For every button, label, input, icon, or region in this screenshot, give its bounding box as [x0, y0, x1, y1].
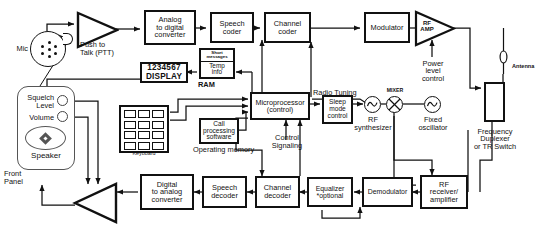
speech-coder-block[interactable]: Speech coder — [210, 12, 254, 43]
equalizer-block[interactable]: Equalizer *optional — [307, 177, 353, 207]
radio-tuning-label: Radio Tuning — [313, 88, 365, 98]
ram-short-messages: Short messages — [201, 50, 233, 62]
frequency-duplexer-block[interactable] — [484, 82, 505, 122]
fixed-oscillator-icon — [424, 96, 441, 113]
block-diagram-canvas: Mic Push to Talk (PTT) Analog to digital… — [0, 0, 555, 242]
control-signaling-label: Control Signaling — [264, 132, 310, 152]
call-processing-software-block[interactable]: Call processing software — [199, 118, 239, 144]
key[interactable] — [152, 142, 164, 150]
channel-decoder-block[interactable]: Channel decoder — [255, 176, 300, 208]
key[interactable] — [152, 110, 164, 118]
keypad-grid[interactable] — [124, 110, 164, 150]
volume-label: Volume — [20, 113, 54, 123]
ram-temp-info: Temp info — [201, 62, 233, 77]
key[interactable] — [124, 121, 136, 129]
key[interactable] — [138, 142, 150, 150]
key[interactable] — [124, 110, 136, 118]
fixed-oscillator-label: Fixed oscillator — [410, 114, 456, 134]
front-panel-label: Front Panel — [4, 168, 38, 188]
rf-synthesizer-label: RF synthesizer — [348, 114, 398, 134]
operating-memory-label: Operating memory — [193, 145, 259, 155]
key[interactable] — [152, 121, 164, 129]
mic-label: Mic — [0, 44, 28, 54]
antenna-label: Antenna — [512, 62, 554, 72]
power-level-control-label: Power level control — [408, 58, 458, 84]
microprocessor-block[interactable]: Microprocessor (control) — [250, 92, 310, 120]
speaker-center-icon — [39, 132, 52, 145]
key[interactable] — [138, 110, 150, 118]
mixer-label: MIXER — [378, 86, 412, 95]
speaker-label: Speaker — [20, 151, 72, 162]
mixer-icon — [386, 96, 403, 113]
key[interactable] — [124, 142, 136, 150]
ram-label: RAM — [198, 80, 230, 90]
digital-to-analog-converter-block[interactable]: Digital to analog converter — [140, 174, 194, 210]
ptt-label: Push to Talk (PTT) — [80, 40, 140, 58]
audio-amplifier-icon — [72, 182, 118, 224]
speaker-icon — [25, 126, 66, 150]
modulator-block[interactable]: Modulator — [364, 12, 410, 43]
rf-synthesizer-icon — [364, 96, 381, 113]
key[interactable] — [138, 121, 150, 129]
key[interactable] — [138, 131, 150, 139]
antenna-icon — [496, 28, 512, 74]
keyboard-label: Keyboard — [132, 151, 155, 157]
squelch-level-label: Squelch Level — [20, 93, 54, 110]
display-text: DISPLAY — [146, 73, 182, 82]
ram-block[interactable]: Short messages Temp info — [199, 48, 235, 79]
channel-coder-block[interactable]: Channel coder — [264, 12, 311, 43]
rf-amp-label: RF AMP — [414, 18, 440, 34]
speech-decoder-block[interactable]: Speech decoder — [202, 176, 247, 208]
rf-receiver-amplifier-block[interactable]: RF receiver/ amplifier — [420, 175, 468, 209]
volume-knob[interactable] — [57, 111, 68, 122]
key[interactable] — [124, 131, 136, 139]
keypad-icon[interactable]: Keyboard — [119, 105, 169, 153]
frequency-duplexer-label: Frequency Duplexer or TR Switch — [454, 124, 536, 154]
analog-to-digital-converter-block[interactable]: Analog to digital converter — [144, 10, 196, 45]
demodulator-block[interactable]: Demodulator — [362, 177, 413, 207]
display-block[interactable]: 1234567 DISPLAY — [140, 62, 188, 83]
key[interactable] — [152, 131, 164, 139]
squelch-level-knob[interactable] — [57, 95, 68, 106]
microphone-icon — [30, 31, 66, 67]
